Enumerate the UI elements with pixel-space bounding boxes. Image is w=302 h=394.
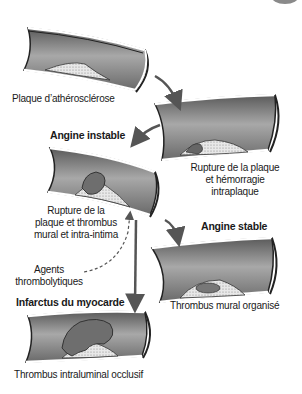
caption-line: thrombolytiques bbox=[14, 276, 84, 288]
caption-thrombolytiques: Agents thrombolytiques bbox=[14, 264, 84, 288]
caption-line: et hémorragie bbox=[176, 174, 294, 186]
caption-plaque: Plaque d’athérosclérose bbox=[12, 93, 115, 105]
caption-rupture: Rupture de la plaque et hémorragie intra… bbox=[176, 162, 294, 198]
caption-line: Rupture de la bbox=[26, 205, 126, 217]
arrow-instable-to-stable bbox=[165, 220, 178, 240]
vessel-infarctus bbox=[26, 312, 150, 363]
caption-infarctus: Thrombus intraluminal occlusif bbox=[14, 369, 143, 381]
vessel-angine-stable bbox=[152, 238, 277, 302]
vessel-rupture-plaque bbox=[155, 95, 279, 160]
arrow-rupture-to-instable bbox=[135, 125, 160, 142]
arrow-plaque-to-rupture bbox=[155, 76, 178, 104]
title-angine-instable: Angine instable bbox=[50, 129, 125, 141]
caption-line: mural et intra-intima bbox=[26, 229, 126, 241]
caption-angine-instable: Rupture de la plaque et thrombus mural e… bbox=[26, 205, 126, 241]
title-angine-stable: Angine stable bbox=[201, 220, 267, 232]
caption-angine-stable: Thrombus mural organisé bbox=[170, 300, 279, 312]
caption-line: intraplaque bbox=[176, 186, 294, 198]
title-infarctus: Infarctus du myocarde bbox=[16, 296, 124, 308]
corner-badge-icon bbox=[271, 0, 299, 4]
caption-line: plaque et thrombus bbox=[26, 217, 126, 229]
arrow-instable-to-infarctus bbox=[135, 220, 136, 306]
caption-line: Rupture de la plaque bbox=[176, 162, 294, 174]
vessel-plaque-atherosclerose bbox=[24, 28, 148, 92]
caption-line: Agents bbox=[14, 264, 84, 276]
